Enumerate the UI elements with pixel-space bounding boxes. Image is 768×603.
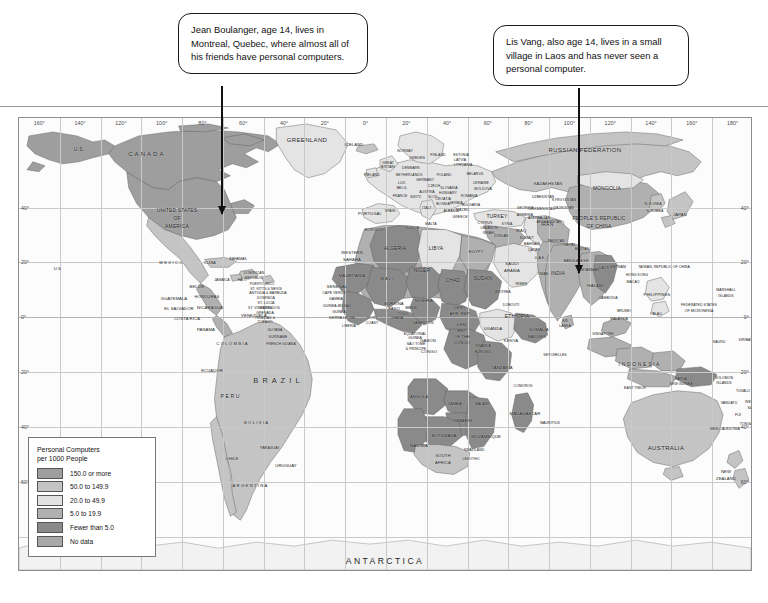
country-label: VENEZUELA [241,313,267,318]
country-label: ISRAEL [483,231,496,235]
country-label: MADAGASCAR [510,411,541,416]
country-label: LIBERIA [342,324,356,328]
country-label: TRINIDAD & [255,316,275,320]
country-label: SPAIN [385,209,396,213]
country-label: BAHRAIN [524,242,540,246]
legend-color-swatch [37,536,63,547]
country-label: TANZANIA [491,365,512,370]
country-label: SAMOA [748,406,752,410]
legend-color-swatch [37,522,63,533]
country-label: P E R U [220,393,239,399]
country-label: PHILIPPINES [644,292,671,297]
country-label: NEPAL [564,243,575,247]
country-label: SOMALIA [529,327,548,332]
country-label: BANGLADESH [564,259,588,263]
country-label: ALGERIA [384,245,407,251]
country-label: I N D O N E S I A [619,361,660,367]
country-label: TUNISIA [405,226,419,230]
country-label: CHAD [446,277,461,283]
country-label: MAURITIUS [540,421,560,425]
country-label: ANGOLA [410,394,428,399]
country-label: OF CHINA [586,223,611,229]
leader-arrow-montreal [221,86,223,214]
country-label: WESTERN [745,400,752,404]
country-label: PUERTO RICO [250,282,275,286]
country-label: HONDURAS [195,294,220,299]
legend-entry-label: Fewer than 5.0 [70,524,114,531]
country-label: JORDAN [494,234,509,238]
callout-laos: Lis Vang, also age 14, lives in a small … [493,25,689,86]
country-label: TOGO [398,312,408,316]
legend-entry: 20.0 to 49.9 [37,495,149,506]
country-label: FRENCH GUIANA [266,342,296,346]
country-label: AUSTRALIA [648,445,685,451]
country-label: MARSHALL [716,288,735,292]
country-label: GRENADA [256,311,274,315]
legend-entry-label: 50.0 to 149.9 [70,483,109,490]
country-label: CHILE [226,456,239,461]
country-label: NIGERIA [415,298,433,303]
country-label: JAMAICA [214,278,230,282]
country-label: LESOTHO [462,457,479,461]
legend-entry-list: 150.0 or more50.0 to 149.920.0 to 49.95.… [37,468,149,547]
country-label: TOBAGO [257,320,272,324]
country-label: RWANDA [475,344,491,348]
country-label: CROATIA [435,197,451,201]
country-label: PAPUA [675,377,687,381]
country-label: CYPRUS [478,221,493,225]
country-label: MYANMAR [581,268,599,272]
country-label: FASO [388,306,400,311]
country-label: LAOS [599,266,609,270]
country-label: SENEGAL [327,284,347,289]
country-label: GUINEA [332,310,346,314]
legend-entry-label: No data [70,538,93,545]
country-label: RUSSIAN FEDERATION [549,147,622,153]
country-label: ANTIGUA & BARBUDA [249,291,286,295]
country-label: GREAT [382,161,394,165]
country-label: HUNGARY [439,191,457,195]
country-label: PORTUGAL [358,211,382,216]
country-label: MOZAMBIQUE [471,434,501,439]
country-label: GUATEMALA [161,296,187,301]
country-label: EGYPT [469,249,484,254]
country-label: ARMENIA [517,213,533,217]
country-label: DENMARK [402,166,420,170]
country-label: BURKINA [384,301,403,306]
country-label: ETHIOPIA [505,313,530,319]
country-label: MALAWI [475,402,489,406]
country-label: DOMINICA [257,296,275,300]
country-label: OF MICRONESIA [685,309,714,313]
country-label: SEYCHELLES [543,353,566,357]
country-label: REPUBLIC [245,276,263,280]
legend-entry-label: 150.0 or more [70,470,111,477]
country-label: NEW GUINEA [669,382,692,386]
country-label: YEMEN [515,282,528,286]
country-label: KENYA [504,338,518,343]
country-label: ECUADOR [201,368,223,373]
country-label: LITHUANIA [454,163,473,167]
country-label: SUDAN [474,275,492,281]
country-label: SOLOMON [715,376,733,380]
legend-color-swatch [37,468,63,479]
country-label: BHUTAN [575,247,589,251]
country-label: POLAND [437,173,452,177]
country-label: MAURITANIA [339,273,366,278]
country-label: GERMANY [416,178,434,182]
country-label: ST. LUCIA [258,301,275,305]
country-label: NEW [721,469,731,474]
country-label: BRUNEI [617,309,631,313]
country-label: IRAQ [516,228,527,233]
country-label: SERBIA [449,201,462,205]
country-label: ARABIA [504,268,520,273]
callout-laos-text: Lis Vang, also age 14, lives in a small … [506,35,677,76]
country-label: PALAU [650,312,661,316]
country-label: BULGARIA [462,203,480,207]
legend-color-swatch [37,508,63,519]
country-label: URUGUAY [275,463,296,468]
country-label: TURKMENISTAN [527,207,555,211]
country-label: S. KOREA [647,209,664,213]
country-label: UKRAINE [473,181,489,185]
legend-entry: 50.0 to 149.9 [37,481,149,492]
country-label: BARBADOS [260,306,280,310]
country-label: HONG KONG [626,273,648,277]
